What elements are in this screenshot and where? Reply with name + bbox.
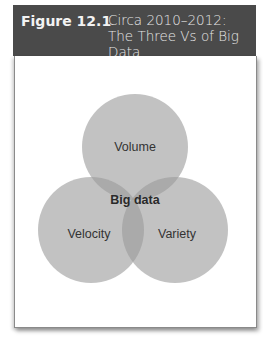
label-big-data: Big data [110, 193, 160, 207]
label-variety: Variety [158, 227, 197, 241]
label-volume: Volume [114, 140, 156, 154]
venn-circles [38, 94, 228, 283]
venn-diagram: Volume Velocity Variety Big data [0, 0, 263, 337]
label-velocity: Velocity [67, 227, 111, 241]
